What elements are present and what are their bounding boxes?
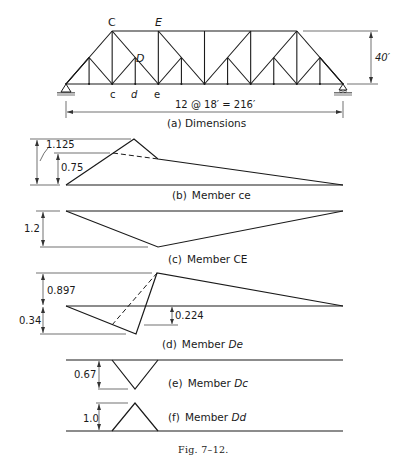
height-dimension: 40′ [303,31,391,84]
label-d-0897: 0.897 [47,285,76,296]
influence-line-c: 1.2 (c)Member CE [24,211,343,265]
truss-member [66,58,89,85]
truss-member [274,58,297,85]
truss-member [228,31,251,58]
truss-joint [180,83,182,85]
truss-joint [157,83,159,85]
truss-member [181,58,204,85]
truss-diagram: C E D c d e 40′ 12 @ 18′ = 216′ (a) Dime… [57,16,391,129]
label-b-075: 0.75 [61,162,83,173]
influence-line-b: 1.125 0.75 (b)Member ce [30,139,343,201]
span-dimension: 12 @ 18′ = 216′ [66,99,343,118]
influence-line-e: 0.67 (e)Member Dc [66,360,343,389]
truss-influence-lines-figure: C E D c d e 40′ 12 @ 18′ = 216′ (a) Dime… [0,0,402,464]
truss-joint [134,83,136,85]
truss-members [65,31,344,85]
label-c-12: 1.2 [24,223,40,234]
truss-member [297,58,320,85]
node-label-D: D [136,52,144,65]
truss-joint [273,83,275,85]
truss-joint [204,83,206,85]
truss-member [112,31,135,58]
truss-member [274,31,297,58]
caption-f: (f)Member Dd [168,411,247,423]
truss-member [205,58,228,85]
truss-joint [111,83,113,85]
height-label: 40′ [375,52,391,63]
node-label-d: d [131,89,138,100]
influence-line-f: 1.0 (f)Member Dd [66,403,343,431]
truss-member [158,58,181,85]
figure-caption: Fig. 7–12. [178,444,229,455]
truss-member [158,31,181,58]
truss-joint [227,83,229,85]
left-pin-support-icon [57,84,75,96]
truss-member [251,58,274,85]
label-b-1125: 1.125 [46,139,75,150]
influence-line-d: 0.897 0.34 0.224 (d)Member De [19,273,343,350]
node-label-C: C [108,16,116,29]
label-d-0224: 0.224 [175,310,204,321]
node-label-E: E [155,16,162,29]
truss-joint [88,83,90,85]
label-d-034: 0.34 [19,315,41,326]
caption-b: (b)Member ce [172,189,251,201]
caption-d: (d)Member De [162,338,243,350]
caption-e: (e)Member Dc [168,377,248,389]
truss-member [320,58,343,85]
span-label: 12 @ 18′ = 216′ [175,99,256,110]
right-roller-support-icon [334,84,352,96]
caption-a: (a) Dimensions [167,117,246,129]
truss-member [112,58,135,85]
truss-joint [250,83,252,85]
truss-member [89,58,112,85]
truss-joint [296,83,298,85]
truss-joint [319,83,321,85]
node-label-c: c [110,89,116,100]
caption-c: (c)Member CE [168,253,247,265]
node-label-e: e [154,89,160,100]
label-f-10: 1.0 [83,413,99,424]
truss-member [228,58,251,85]
label-e-067: 0.67 [74,369,96,380]
